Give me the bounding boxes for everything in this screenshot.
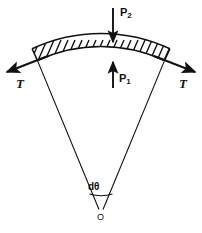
pressure-p1-subscript: 1 (126, 77, 130, 86)
tension-left-label: T (16, 77, 24, 90)
pressure-p2-subscript: 2 (127, 11, 131, 20)
membrane-band (26, 33, 180, 72)
tension-left-arrow (7, 56, 48, 72)
diagram-canvas (0, 0, 202, 233)
angle-label: dθ (88, 182, 100, 192)
radial-lines (38, 61, 165, 210)
figure-container: P2 P1 T T dθ O (0, 0, 202, 233)
pressure-p2-label: P2 (120, 7, 132, 18)
origin-label: O (97, 213, 104, 222)
band-end-cap-right (165, 49, 170, 61)
tension-right-arrow (154, 56, 195, 72)
tension-right-label: T (179, 77, 187, 90)
pressure-p1-label: P1 (119, 73, 131, 84)
